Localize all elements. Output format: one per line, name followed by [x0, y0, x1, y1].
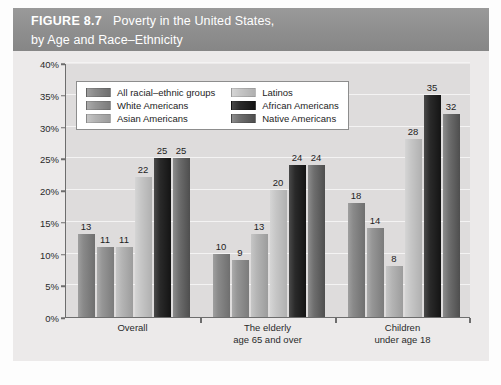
y-axis-tick-label: 40%	[25, 59, 59, 70]
bar-fill	[173, 158, 190, 317]
bar: 25	[154, 158, 171, 317]
y-axis-tick-mark	[61, 63, 65, 65]
x-axis-tick-mark	[469, 318, 471, 323]
bar-fill	[443, 114, 460, 317]
bar-fill	[386, 266, 403, 317]
legend-label: White Americans	[117, 100, 188, 111]
bar-value-label: 24	[311, 152, 322, 163]
bar-value-label: 32	[446, 101, 457, 112]
legend-swatch-icon	[231, 88, 256, 97]
figure-header-band: FIGURE 8.7Poverty in the United States, …	[13, 8, 489, 51]
bar-fill	[213, 254, 230, 318]
bar-value-label: 25	[176, 145, 187, 156]
legend-item: Native Americans	[231, 113, 339, 124]
bar: 32	[443, 114, 460, 317]
y-axis-tick-label: 35%	[25, 90, 59, 101]
figure-number: FIGURE 8.7	[31, 14, 102, 28]
y-axis-tick-label: 20%	[25, 186, 59, 197]
bar: 18	[348, 203, 365, 317]
legend-swatch-icon	[86, 114, 111, 123]
bar: 13	[78, 234, 95, 317]
x-axis-group-label-line-1: The elderly	[233, 322, 302, 334]
bar-fill	[251, 234, 268, 317]
bar: 13	[251, 234, 268, 317]
bar-fill	[348, 203, 365, 317]
bar-fill	[270, 190, 287, 317]
legend-label: Asian Americans	[117, 113, 188, 124]
legend-label: All racial–ethnic groups	[117, 87, 215, 98]
bar: 20	[270, 190, 287, 317]
bar-value-label: 8	[391, 253, 396, 264]
legend-swatch-icon	[231, 101, 256, 110]
bar: 25	[173, 158, 190, 317]
chart-legend: All racial–ethnic groupsLatinosWhite Ame…	[76, 81, 349, 130]
legend-swatch-icon	[231, 114, 256, 123]
figure-container: FIGURE 8.7Poverty in the United States, …	[0, 0, 501, 385]
y-axis-tick-label: 15%	[25, 217, 59, 228]
bar: 11	[116, 247, 133, 317]
bar: 24	[308, 165, 325, 317]
x-axis-group-label: The elderlyage 65 and over	[233, 322, 302, 346]
bar: 22	[135, 177, 152, 317]
bar-fill	[424, 95, 441, 317]
bar: 9	[232, 260, 249, 317]
x-axis-group-label-line-2: under age 18	[375, 334, 431, 346]
chart-area: Percentage 13111122252510913202424181482…	[13, 51, 489, 361]
legend-swatch-icon	[86, 101, 111, 110]
bar-value-label: 28	[408, 126, 419, 137]
bar-value-label: 25	[157, 145, 168, 156]
bar-fill	[154, 158, 171, 317]
y-axis-tick-mark	[61, 159, 65, 161]
bar-value-label: 18	[351, 190, 362, 201]
legend-label: Latinos	[262, 87, 293, 98]
y-axis-tick-mark	[61, 127, 65, 129]
bar-value-label: 13	[81, 221, 92, 232]
legend-item: Asian Americans	[86, 113, 215, 124]
bar-fill	[367, 228, 384, 317]
bar-fill	[135, 177, 152, 317]
y-axis-tick-mark	[61, 95, 65, 97]
x-axis-group-label-line-2: age 65 and over	[233, 334, 302, 346]
legend-swatch-icon	[86, 88, 111, 97]
legend-item: African Americans	[231, 100, 339, 111]
x-axis-tick-mark	[335, 318, 337, 323]
x-axis-group-label: Overall	[117, 322, 147, 334]
legend-item: White Americans	[86, 100, 215, 111]
figure-title-line-1: Poverty in the United States,	[113, 14, 274, 28]
y-axis-tick-label: 25%	[25, 154, 59, 165]
figure-header-line-1: FIGURE 8.7Poverty in the United States,	[31, 12, 489, 31]
y-axis-tick-label: 30%	[25, 122, 59, 133]
legend-label: Native Americans	[262, 113, 336, 124]
bar: 24	[289, 165, 306, 317]
bar: 14	[367, 228, 384, 317]
bar-fill	[97, 247, 114, 317]
bar: 10	[213, 254, 230, 318]
bar: 28	[405, 139, 422, 317]
legend-item: All racial–ethnic groups	[86, 87, 215, 98]
bar-value-label: 9	[237, 247, 242, 258]
bar-fill	[116, 247, 133, 317]
bar-fill	[232, 260, 249, 317]
bar-fill	[78, 234, 95, 317]
y-axis-tick-label: 10%	[25, 249, 59, 260]
bar-value-label: 24	[292, 152, 303, 163]
y-axis-tick-label: 5%	[25, 281, 59, 292]
grid-line	[66, 62, 470, 63]
bar-fill	[289, 165, 306, 317]
bar-value-label: 22	[138, 164, 149, 175]
bar: 11	[97, 247, 114, 317]
bar-value-label: 11	[100, 234, 110, 245]
bar-value-label: 14	[370, 215, 381, 226]
x-axis-tick-mark	[200, 318, 202, 323]
bar-value-label: 10	[216, 241, 227, 252]
x-axis-group-label-line-1: Overall	[117, 322, 147, 334]
x-axis-group-label-line-1: Children	[375, 322, 431, 334]
y-axis-tick-mark	[61, 222, 65, 224]
bar: 35	[424, 95, 441, 317]
y-axis-tick-mark	[61, 190, 65, 192]
legend-item: Latinos	[231, 87, 339, 98]
y-axis-tick-label: 0%	[25, 313, 59, 324]
x-axis-group-label: Childrenunder age 18	[375, 322, 431, 346]
y-axis-tick-mark	[61, 286, 65, 288]
bar-fill	[308, 165, 325, 317]
